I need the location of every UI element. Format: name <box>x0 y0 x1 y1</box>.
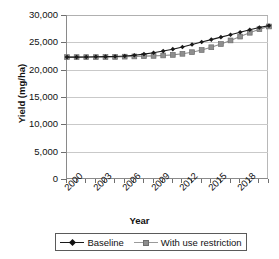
series-line <box>67 26 269 57</box>
legend-label: With use restriction <box>161 237 242 248</box>
data-point-marker <box>228 32 233 37</box>
data-point-marker <box>228 38 233 43</box>
legend-item-baseline: Baseline <box>60 237 123 248</box>
x-axis-tick <box>172 179 173 183</box>
chart-legend: Baseline With use restriction <box>55 233 247 251</box>
x-axis-tick <box>143 179 144 183</box>
data-point-marker <box>219 35 224 40</box>
x-axis-tick <box>85 179 86 183</box>
y-axis-tick-label: 20,000 <box>0 64 58 75</box>
data-point-marker <box>180 45 185 50</box>
x-axis-tick <box>201 179 202 183</box>
data-point-marker <box>238 30 243 35</box>
x-axis-tick <box>258 179 259 183</box>
data-point-marker <box>171 47 176 52</box>
data-point-marker <box>238 34 243 39</box>
data-point-marker <box>199 48 204 53</box>
legend-marker-diamond-icon <box>60 237 84 247</box>
y-axis-tick-label: 25,000 <box>0 36 58 47</box>
data-point-marker <box>170 53 175 58</box>
y-axis-tick-label: 30,000 <box>0 9 58 20</box>
legend-item-with-use-restriction: With use restriction <box>134 237 242 248</box>
x-axis-tick <box>114 179 115 183</box>
data-point-marker <box>190 42 195 47</box>
chart-figure: Yield (mg/ha) 05,00010,00015,00020,00025… <box>0 0 279 259</box>
y-axis-tick-label: 15,000 <box>0 91 58 102</box>
series-group <box>67 15 269 179</box>
x-axis-title: Year <box>0 215 279 226</box>
legend-label: Baseline <box>87 237 123 248</box>
data-point-marker <box>161 53 166 58</box>
data-point-marker <box>209 45 214 50</box>
data-point-marker <box>219 42 224 47</box>
data-point-marker <box>209 37 214 42</box>
series-line <box>67 26 269 57</box>
data-point-marker <box>190 50 195 55</box>
data-point-marker <box>199 40 204 45</box>
y-axis-tick-label: 5,000 <box>0 146 58 157</box>
data-point-marker <box>180 51 185 56</box>
y-axis-tick-label: 10,000 <box>0 118 58 129</box>
plot-area <box>66 15 268 179</box>
x-axis-tick <box>268 179 269 183</box>
data-point-marker <box>161 49 166 54</box>
x-axis-tick <box>230 179 231 183</box>
y-axis-tick-label: 0 <box>0 173 58 184</box>
legend-marker-square-icon <box>134 237 158 247</box>
